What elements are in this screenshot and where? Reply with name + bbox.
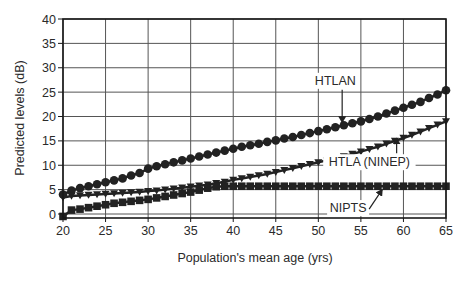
data-point [229,182,237,190]
x-axis-label: Population's mean age (yrs) [177,251,332,265]
data-point [434,182,442,190]
data-point [271,136,280,145]
data-point [178,156,187,165]
data-point [374,182,382,190]
data-point [348,119,357,128]
data-point [323,125,332,134]
data-point [102,201,110,209]
data-point [255,182,263,190]
data-point [220,146,229,155]
data-point [263,182,271,190]
data-point [408,101,417,110]
x-tick-label: 60 [396,224,410,238]
y-tick-label: 20 [42,110,56,124]
data-point [340,121,349,130]
data-point [238,182,246,190]
data-point [195,186,203,194]
data-point [246,182,254,190]
data-point [161,193,169,201]
data-point [382,109,391,118]
data-point [161,160,170,169]
data-point [425,94,434,103]
data-point [110,176,119,185]
data-point [93,180,102,189]
x-tick-label: 30 [141,224,155,238]
x-tick-label: 55 [354,224,368,238]
data-point [254,140,263,149]
data-point [212,183,220,191]
data-point [408,182,416,190]
data-point [280,134,289,143]
data-point [119,199,127,207]
data-point [263,138,272,147]
data-point [366,182,374,190]
data-point [425,182,433,190]
annotation-label: HTLA (NINEP) [329,155,410,169]
data-point [229,144,238,153]
data-point [306,129,315,138]
data-point [357,117,366,126]
x-tick-label: 35 [184,224,198,238]
data-point [110,199,118,207]
data-point [374,112,383,121]
data-point [127,171,136,180]
data-point [170,191,178,199]
data-point [416,98,425,107]
data-point [417,182,425,190]
data-point [340,182,348,190]
y-axis-label: Predicted levels (dB) [13,60,27,175]
data-point [85,204,93,212]
line-chart: 051015202530354020253035404550556065 HTL… [0,0,470,282]
data-point [127,198,135,206]
data-point [212,148,221,157]
y-tick-label: 10 [42,159,56,173]
data-point [237,142,246,151]
data-point [298,182,306,190]
data-point [144,164,153,173]
series-nipts [59,182,450,220]
data-point [204,184,212,192]
data-point [272,182,280,190]
y-tick-label: 0 [49,208,56,222]
data-point [187,188,195,196]
data-point [315,182,323,190]
series-layer [59,86,451,220]
data-point [93,202,101,210]
data-point [323,182,331,190]
data-point [399,103,408,112]
data-point [400,182,408,190]
data-point [101,178,110,187]
data-point [297,131,306,140]
data-point [84,182,93,191]
data-point [314,127,323,136]
data-point [203,150,212,159]
data-point [152,162,161,171]
data-point [365,115,374,124]
data-point [349,182,357,190]
data-point [289,182,297,190]
data-point [357,182,365,190]
data-point [135,169,144,178]
y-tick-label: 15 [42,134,56,148]
x-tick-label: 65 [439,224,453,238]
data-point [383,182,391,190]
y-tick-label: 5 [49,183,56,197]
data-point [76,205,84,213]
data-point [391,106,400,115]
data-point [433,90,442,99]
data-point [144,196,152,204]
data-point [178,190,186,198]
data-point [153,194,161,202]
data-point [332,182,340,190]
y-tick-label: 35 [42,37,56,51]
data-point [186,154,195,163]
data-point [221,182,229,190]
annotation-label: NIPTS [330,201,367,215]
data-point [195,152,204,161]
y-tick-label: 40 [42,13,56,27]
data-point [169,158,178,167]
data-point [391,182,399,190]
chart-container: 051015202530354020253035404550556065 HTL… [0,0,470,282]
data-point [76,184,85,193]
x-tick-label: 45 [269,224,283,238]
